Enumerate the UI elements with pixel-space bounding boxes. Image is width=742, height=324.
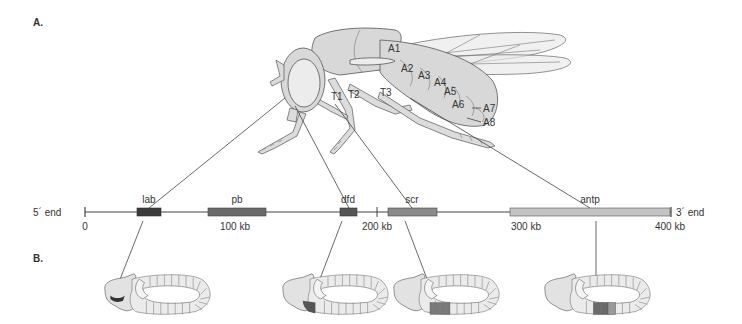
embryo-lab: [105, 274, 210, 315]
fly-leg-front: [258, 112, 306, 154]
gene-scr-label: scr: [405, 194, 419, 205]
three-prime-end-label: 3´ end: [676, 207, 704, 218]
gene-pb: [208, 208, 266, 216]
segment-a7: A7: [483, 103, 496, 114]
segment-a8: A8: [483, 117, 496, 128]
fly-illustration: T1 T2 T3 A1 A2 A3 A4 A5 A6 A7 A8: [258, 28, 571, 154]
segment-a5: A5: [444, 86, 457, 97]
gene-scr: [388, 208, 437, 216]
scale-200kb: 200 kb: [362, 221, 392, 232]
embryo-dfd: [283, 274, 388, 315]
segment-a2: A2: [401, 63, 414, 74]
gene-antp-label: antp: [580, 194, 600, 205]
expression-scr: [430, 303, 450, 315]
scale-100kb: 100 kb: [220, 221, 250, 232]
gene-lab-label: lab: [142, 194, 156, 205]
segment-t1: T1: [331, 91, 343, 102]
fly-eye: [288, 59, 320, 107]
embryo-scr: [394, 274, 499, 315]
gene-pb-label: pb: [231, 194, 243, 205]
segment-a3: A3: [418, 70, 431, 81]
hox-gene-diagram: A. B. T1 T2 T3 A1 A2 A3 A4 A: [0, 0, 742, 324]
segment-a1: A1: [388, 43, 401, 54]
five-prime-end-label: 5´ end: [33, 207, 61, 218]
gene-map: 5´ end 3´ end lab pb dfd scr antp 0 100 …: [33, 194, 704, 232]
fly-gene-pointers: [149, 98, 590, 208]
gene-dfd: [340, 208, 357, 216]
panel-b-label: B.: [33, 253, 43, 264]
segment-a6: A6: [452, 99, 465, 110]
gene-dfd-label: dfd: [341, 194, 355, 205]
expression-dfd: [303, 301, 316, 314]
segment-t3: T3: [380, 87, 392, 98]
gene-lab: [137, 208, 161, 216]
segment-t2: T2: [348, 89, 360, 100]
fly-proboscis: [287, 108, 298, 122]
embryo-antp: [545, 274, 650, 315]
scale-300kb: 300 kb: [511, 221, 541, 232]
scale-400kb: 400 kb: [655, 221, 685, 232]
gene-antp: [510, 208, 670, 216]
panel-a-label: A.: [33, 17, 43, 28]
scale-0: 0: [82, 221, 88, 232]
